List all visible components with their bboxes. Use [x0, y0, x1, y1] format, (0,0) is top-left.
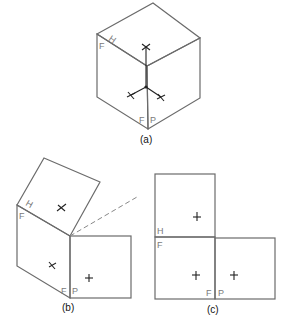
- cross-mark-left: [127, 92, 135, 99]
- cross-mark-f: [192, 271, 200, 280]
- cross-mark-f: [49, 262, 56, 269]
- figure-a-cube: H F F P (a): [97, 3, 200, 145]
- cross-mark-p: [230, 271, 238, 280]
- profile-face: [70, 236, 131, 298]
- label-f-bottom: F: [61, 286, 67, 296]
- label-f: F: [157, 240, 163, 250]
- label-p: P: [72, 286, 78, 296]
- label-f: F: [19, 211, 25, 221]
- figure-c-unfolded: H F F P (c): [155, 174, 275, 315]
- label-f-bottom: F: [206, 288, 212, 298]
- cross-mark-right: [157, 94, 165, 101]
- label-h: H: [107, 33, 118, 45]
- cross-mark-h: [193, 212, 201, 221]
- front-face: [17, 205, 70, 298]
- hinge-line: [70, 197, 137, 236]
- label-h: H: [157, 226, 164, 236]
- caption-b: (b): [62, 302, 74, 313]
- cross-mark-h: [57, 204, 66, 211]
- label-p: P: [150, 115, 156, 125]
- label-f: F: [99, 41, 105, 51]
- horizontal-face: [155, 174, 215, 237]
- caption-c: (c): [207, 304, 219, 315]
- projection-diagram: H F F P (a) H F F P (b): [0, 0, 285, 324]
- cross-mark-p: [85, 274, 93, 282]
- label-h: H: [24, 198, 35, 210]
- label-f-bottom: F: [139, 115, 145, 125]
- figure-b-unfolding: H F F P (b): [17, 158, 137, 313]
- rotating-top-face: [17, 158, 100, 236]
- caption-a: (a): [140, 134, 152, 145]
- origin-point: [144, 85, 147, 88]
- label-p: P: [218, 288, 224, 298]
